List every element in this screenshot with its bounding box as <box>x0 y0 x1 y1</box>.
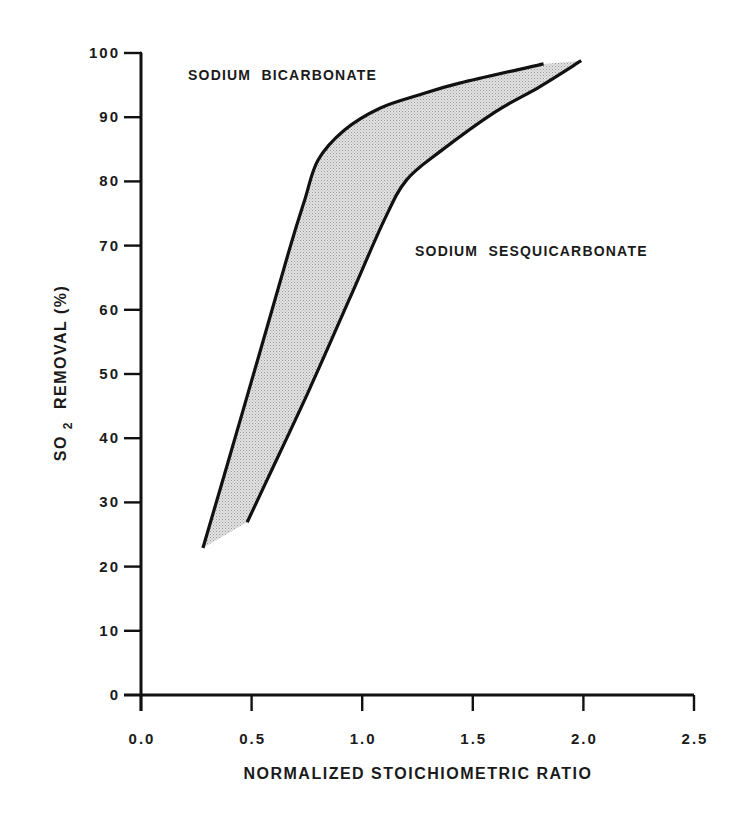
y-tick-label: 90 <box>99 108 120 125</box>
y-tick-label: 80 <box>99 172 120 189</box>
y-axis-title-rest: REMOVAL (%) <box>52 285 69 409</box>
so2-removal-chart: 0102030405060708090100 0.00.51.01.52.02.… <box>0 0 746 819</box>
x-tick-label: 0.5 <box>239 730 266 747</box>
x-tick-label: 1.0 <box>350 730 377 747</box>
y-tick-label: 40 <box>99 429 120 446</box>
y-tick-label: 0 <box>110 686 120 703</box>
y-axis-title-subscript: 2 <box>61 421 75 429</box>
y-axis-title: SO 2 REMOVAL (%) <box>52 285 75 462</box>
y-tick-label: 20 <box>99 558 120 575</box>
y-tick-label: 100 <box>89 44 120 61</box>
y-axis-ticks: 0102030405060708090100 <box>89 44 142 703</box>
y-tick-label: 70 <box>99 237 120 254</box>
x-axis-title: NORMALIZED STOICHIOMETRIC RATIO <box>243 765 592 782</box>
x-tick-label: 1.5 <box>460 730 487 747</box>
y-tick-label: 10 <box>99 622 120 639</box>
y-tick-label: 30 <box>99 493 120 510</box>
shaded-region <box>203 61 581 548</box>
shaded-band-between-curves <box>203 61 581 548</box>
x-tick-label: 0.0 <box>129 730 156 747</box>
y-axis-title-main: SO <box>52 435 69 461</box>
annotation-sodium-sesquicarbonate: SODIUM SESQUICARBONATE <box>415 243 648 259</box>
annotation-sodium-bicarbonate: SODIUM BICARBONATE <box>188 67 377 83</box>
x-tick-label: 2.5 <box>682 730 709 747</box>
svg-text:SO 2 REMOVAL (%): SO 2 REMOVAL (%) <box>52 285 75 462</box>
x-axis-ticks: 0.00.51.01.52.02.5 <box>129 695 709 747</box>
x-tick-label: 2.0 <box>571 730 598 747</box>
y-tick-label: 50 <box>99 365 120 382</box>
y-tick-label: 60 <box>99 301 120 318</box>
